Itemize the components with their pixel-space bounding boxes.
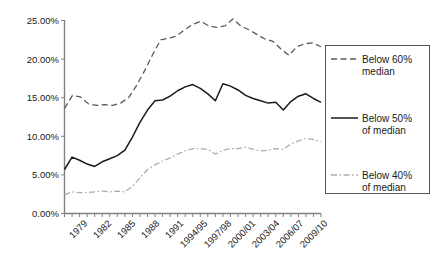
series-line-below-60	[65, 19, 322, 109]
legend-item-below-50[interactable]: Below 50% of median	[331, 113, 412, 136]
y-axis-tick-label: 15.00%	[27, 92, 60, 103]
chart-legend: Below 60% median Below 50% of median Bel…	[326, 46, 430, 194]
series-line-below-50	[65, 84, 322, 170]
x-axis-tick-label: 1985	[115, 218, 138, 241]
legend-label-line2: of median	[362, 125, 406, 136]
legend-label-line1: Below 40%	[362, 170, 412, 181]
legend-item-below-40[interactable]: Below 40% of median	[331, 170, 412, 193]
series-line-below-40	[65, 139, 322, 195]
poverty-rate-line-chart: 0.00% 5.00% 10.00% 15.00% 20.00% 25.00% …	[0, 0, 435, 270]
legend-label-line2: of median	[362, 182, 406, 193]
y-axis-tick-label: 0.00%	[32, 208, 59, 219]
x-axis-tick-label: 1979	[67, 218, 90, 241]
y-axis-tick-label: 5.00%	[32, 169, 59, 180]
x-axis-labels: 1979 1982 1985 1988 1991 1994/95 1997/98…	[67, 218, 330, 250]
legend-label-line1: Below 50%	[362, 113, 412, 124]
y-axis-labels: 0.00% 5.00% 10.00% 15.00% 20.00% 25.00%	[27, 15, 60, 219]
data-series-group	[65, 19, 322, 195]
y-axis-tick-label: 10.00%	[27, 131, 60, 142]
legend-label-line2: median	[362, 66, 395, 77]
chart-container: 0.00% 5.00% 10.00% 15.00% 20.00% 25.00% …	[0, 0, 435, 270]
x-axis-tick-label: 1982	[91, 218, 114, 241]
legend-label-line1: Below 60%	[362, 54, 412, 65]
y-axis-tick-label: 20.00%	[27, 54, 60, 65]
legend-item-below-60[interactable]: Below 60% median	[331, 54, 412, 77]
y-axis-tick-label: 25.00%	[27, 15, 60, 26]
x-axis-tick-label: 1988	[139, 218, 162, 241]
